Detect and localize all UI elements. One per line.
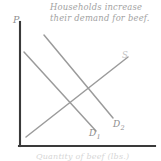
supply-curve-label: S — [122, 50, 128, 61]
demand-curve-2-label: D2 — [113, 119, 125, 132]
supply-demand-diagram-screenshot: Households increase their demand for bee… — [0, 0, 161, 161]
annotation-households-demand: Households increase their demand for bee… — [50, 2, 161, 23]
diagram-canvas — [0, 0, 161, 161]
demand-curve-1-label-subscript: 1 — [96, 133, 100, 141]
demand-curve-1-label: D1 — [89, 128, 101, 141]
quantity-axis-caption: Quantity of beef (lbs.) — [36, 152, 129, 161]
demand-curve-2-label-subscript: 2 — [120, 124, 124, 132]
price-axis-label: P — [13, 14, 20, 26]
